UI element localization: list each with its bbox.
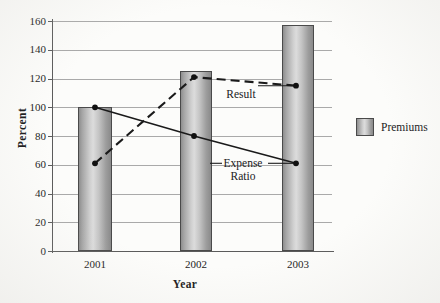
chart-figure: 160 140 120 100 80 60 40 20 0 2001 2002 … (0, 0, 440, 303)
legend-label-premiums: Premiums (381, 121, 428, 133)
marker-result-2001 (92, 160, 98, 166)
legend: Premiums (356, 118, 428, 136)
annotation-expense-ratio-line1: Expense (216, 157, 270, 170)
series-layer (0, 0, 440, 303)
annotation-result: Result (213, 88, 269, 101)
marker-expense-2002 (191, 133, 197, 139)
annotation-expense-ratio-line2: Ratio (216, 170, 270, 183)
marker-expense-2003 (293, 160, 299, 166)
marker-result-2002 (191, 74, 197, 80)
marker-result-2003 (293, 83, 299, 89)
marker-expense-2001 (92, 104, 98, 110)
legend-swatch-premiums (356, 118, 374, 136)
